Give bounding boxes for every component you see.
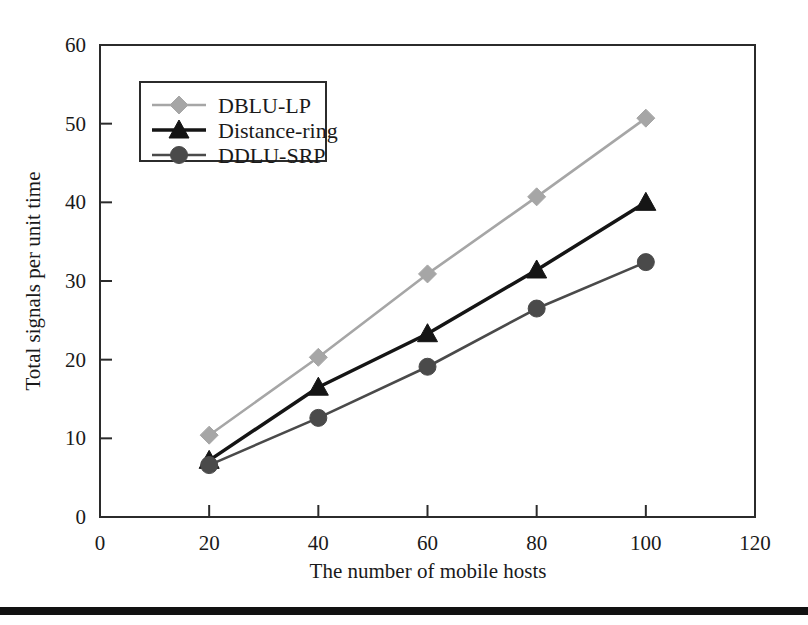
data-point-marker [527,260,547,278]
x-tick-labels: 020406080100120 [95,531,771,555]
y-tick-labels: 0102030405060 [65,33,86,529]
data-point-marker [310,409,327,426]
y-tick-label: 0 [76,505,87,529]
data-point-marker [418,324,438,342]
legend-entry-label: DBLU-LP [218,93,311,118]
y-tick-label: 20 [65,348,86,372]
x-tick-label: 120 [739,531,771,555]
data-point-marker [528,188,546,206]
legend-entry-label: DDLU-SRP [218,143,326,168]
bottom-divider-rule [0,607,808,615]
series-distance-ring [199,192,656,468]
y-axis-ticks [100,45,112,517]
data-point-marker [636,192,656,210]
x-tick-label: 60 [417,531,438,555]
series-ddlu-srp [201,254,655,474]
data-point-marker [200,426,218,444]
data-point-marker [637,109,655,127]
x-tick-label: 40 [308,531,329,555]
x-tick-label: 20 [199,531,220,555]
data-point-marker [419,358,436,375]
y-tick-label: 40 [65,190,86,214]
y-tick-label: 60 [65,33,86,57]
y-tick-label: 50 [65,112,86,136]
x-axis-ticks [100,505,755,517]
data-point-marker [637,254,654,271]
legend-swatch-marker [171,147,188,164]
data-point-marker [308,377,328,395]
line-chart-svg: 0102030405060 020406080100120 DBLU-LPDis… [0,0,808,625]
y-tick-label: 10 [65,426,86,450]
y-axis-title: Total signals per unit time [21,172,45,391]
chart-legend: DBLU-LPDistance-ringDDLU-SRP [140,82,338,168]
data-point-marker [201,457,218,474]
x-tick-label: 100 [630,531,662,555]
x-tick-label: 80 [526,531,547,555]
legend-entry-label: Distance-ring [218,118,338,143]
y-tick-label: 30 [65,269,86,293]
data-point-marker [528,300,545,317]
legend-entry-ddlu-srp: DDLU-SRP [152,143,326,168]
chart-figure: 0102030405060 020406080100120 DBLU-LPDis… [0,0,808,625]
x-axis-title: The number of mobile hosts [310,559,547,583]
x-tick-label: 0 [95,531,106,555]
